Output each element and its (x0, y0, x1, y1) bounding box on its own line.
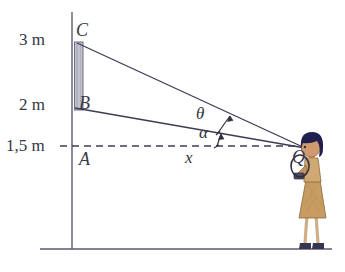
theta-angle-arc (218, 116, 230, 133)
label-height-1-5m: 1,5 m (6, 137, 45, 154)
geometry-diagram-figure: 3 m 2 m 1,5 m C B A Q θ α x (0, 0, 345, 272)
label-height-2m: 2 m (19, 96, 45, 113)
observer-leg-left (305, 215, 307, 243)
diagram-canvas (0, 0, 345, 272)
alpha-angle-arrowhead (219, 134, 225, 140)
label-point-b: B (79, 94, 90, 112)
label-point-q: Q (292, 148, 305, 166)
sightline-b-to-q (75, 108, 305, 148)
observer-skirt (299, 180, 326, 218)
observer-leg-right (316, 215, 318, 243)
label-point-c: C (76, 21, 88, 39)
sightline-c-to-q (77, 43, 305, 148)
label-angle-alpha: α (199, 124, 208, 141)
observer-shoe-right (312, 243, 324, 249)
label-point-a: A (79, 150, 90, 168)
observer-shoe-left (299, 243, 311, 249)
label-angle-theta: θ (196, 105, 204, 122)
label-distance-x: x (185, 149, 193, 166)
label-height-3m: 3 m (19, 31, 45, 48)
